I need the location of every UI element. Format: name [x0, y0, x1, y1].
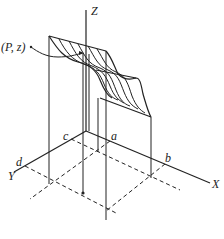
- mid-edge: [96, 70, 136, 78]
- grid-line-b: [106, 164, 165, 211]
- point-d-label: d: [16, 155, 23, 169]
- grid-line-d: [25, 166, 116, 213]
- point-pz-label: (P, z): [1, 40, 25, 54]
- ground-grid: [25, 139, 180, 213]
- point-a-label: a: [111, 129, 117, 143]
- x-axis-label: X: [211, 177, 220, 191]
- surface-diagram: Z X Y (P, z) c a d b: [0, 0, 224, 239]
- point-marker: [81, 191, 84, 194]
- z-axis-label: Z: [91, 4, 98, 18]
- pointer-arrow: [31, 47, 82, 57]
- point-c-label: c: [63, 129, 69, 143]
- cross-section-5: [97, 49, 145, 113]
- arrow-tail-dot: [30, 46, 32, 48]
- vertical-lines: [49, 36, 151, 220]
- bottom-edge: [100, 98, 151, 117]
- distribution-surface: [49, 36, 151, 117]
- front-profile: [106, 51, 151, 117]
- figure: Z X Y (P, z) c a d b: [0, 0, 224, 239]
- point-b-label: b: [165, 151, 171, 165]
